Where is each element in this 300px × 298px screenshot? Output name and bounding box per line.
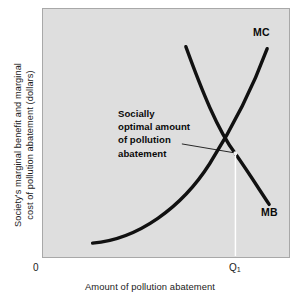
y-axis-label-line-1: Society's marginal benefit and marginal [12,63,25,227]
socially-optimal-annotation: Socially optimal amount of pollution aba… [118,107,214,160]
y-axis-label-line-2: cost of pollution abatement (dollars) [24,70,37,219]
annotation-line-1: Socially [118,107,214,120]
intersection-point-marker [233,151,237,155]
annotation-line-2: optimal amount [118,120,214,133]
annotation-line-4: abatement [118,147,214,160]
y-axis-label: Society's marginal benefit and marginal … [7,25,41,265]
mb-curve-label: MB [261,206,278,218]
origin-tick-label: 0 [33,262,39,273]
q1-letter: Q [229,262,237,273]
mc-curve-label: MC [253,26,270,38]
pollution-abatement-chart: Society's marginal benefit and marginal … [0,0,300,298]
q1-tick-label: Q1 [229,262,241,273]
x-axis-label: Amount of pollution abatement [0,281,300,292]
q1-subscript: 1 [237,265,241,274]
annotation-line-3: of pollution [118,133,214,146]
